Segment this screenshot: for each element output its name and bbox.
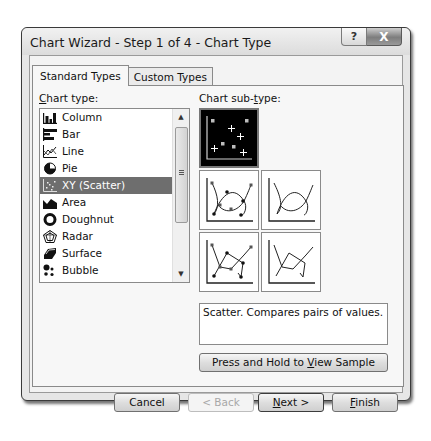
list-item-radar[interactable]: Radar	[40, 228, 172, 245]
list-item-area[interactable]: Area	[40, 194, 172, 211]
pie-chart-icon	[43, 162, 57, 175]
help-icon: ?	[351, 30, 357, 43]
view-sample-button[interactable]: Press and Hold to View Sample	[199, 353, 388, 372]
standard-types-panel: Chart type: Column Bar Line Pie	[32, 85, 404, 387]
bubble-chart-icon	[43, 264, 57, 277]
line-chart-icon	[43, 145, 57, 158]
back-button[interactable]: < Back	[188, 393, 254, 412]
dialog-client-area: Standard Types Custom Types Chart type: …	[29, 55, 403, 393]
dialog-title: Chart Wizard - Step 1 of 4 - Chart Type	[30, 35, 271, 50]
subtype-scatter-markers[interactable]	[199, 108, 259, 168]
doughnut-chart-icon	[43, 213, 57, 226]
close-button[interactable]: X	[367, 28, 402, 46]
subtype-scatter-lines-markers[interactable]	[199, 232, 259, 292]
scatter-markers-icon	[201, 110, 257, 166]
subtype-scatter-smoothed[interactable]	[261, 170, 321, 230]
grip-icon	[179, 170, 184, 171]
list-item-bar[interactable]: Bar	[40, 126, 172, 143]
scatter-lines-icon	[262, 233, 320, 291]
chart-type-list[interactable]: Column Bar Line Pie XY (Scatter)	[39, 108, 190, 283]
subtype-scatter-lines[interactable]	[261, 232, 321, 292]
chart-type-scrollbar[interactable]: ▲ ▼	[172, 109, 189, 282]
list-item-bubble[interactable]: Bubble	[40, 262, 172, 279]
subtype-scatter-smoothed-markers[interactable]	[199, 170, 259, 230]
scatter-smoothed-icon	[262, 171, 320, 229]
chart-subtype-grid	[199, 108, 325, 298]
subtype-description: Scatter. Compares pairs of values.	[199, 303, 388, 345]
chart-subtype-label: Chart sub-type:	[199, 92, 281, 104]
list-item-line[interactable]: Line	[40, 143, 172, 160]
scatter-lines-markers-icon	[200, 233, 258, 291]
chart-wizard-dialog: Chart Wizard - Step 1 of 4 - Chart Type …	[21, 27, 411, 401]
scroll-down-button[interactable]: ▼	[173, 266, 189, 282]
scroll-up-button[interactable]: ▲	[173, 109, 189, 125]
scatter-smoothed-markers-icon	[200, 171, 258, 229]
cancel-button[interactable]: Cancel	[114, 393, 180, 412]
list-item-column[interactable]: Column	[40, 109, 172, 126]
radar-chart-icon	[43, 230, 57, 243]
next-button[interactable]: Next >	[258, 393, 324, 412]
tab-custom-types[interactable]: Custom Types	[128, 67, 213, 86]
chart-type-label: Chart type:	[39, 92, 98, 104]
help-button[interactable]: ?	[341, 28, 367, 46]
tab-standard-types[interactable]: Standard Types	[32, 65, 129, 86]
finish-button[interactable]: Finish	[332, 393, 398, 412]
list-item-pie[interactable]: Pie	[40, 160, 172, 177]
close-icon: X	[379, 30, 388, 44]
list-item-doughnut[interactable]: Doughnut	[40, 211, 172, 228]
list-item-surface[interactable]: Surface	[40, 245, 172, 262]
scroll-thumb[interactable]	[175, 127, 188, 223]
list-item-xy-scatter[interactable]: XY (Scatter)	[40, 177, 172, 194]
bar-chart-icon	[43, 128, 57, 141]
column-chart-icon	[43, 111, 57, 124]
surface-chart-icon	[43, 247, 57, 260]
tab-strip: Standard Types Custom Types	[32, 65, 213, 86]
title-bar[interactable]: Chart Wizard - Step 1 of 4 - Chart Type …	[22, 28, 410, 55]
scatter-chart-icon	[43, 179, 57, 192]
area-chart-icon	[43, 196, 57, 209]
